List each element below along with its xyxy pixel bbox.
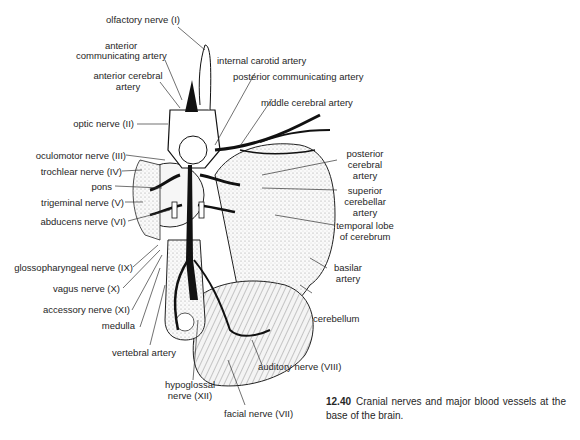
label-pons: pons (60, 181, 112, 192)
figure-number: 12.40 (326, 396, 351, 407)
label-anterior-cerebral-artery-2: artery (88, 81, 168, 92)
label-abducens-nerve: abducens nerve (VI) (20, 216, 126, 227)
label-cerebellum: cerebellum (313, 313, 359, 324)
label-superior-cerebellar-artery-3: artery (338, 207, 392, 218)
label-temporal-lobe-1: temporal lobe (333, 220, 397, 231)
label-basilar-artery-2: artery (327, 273, 369, 284)
label-posterior-cerebral-artery-1: posterior (338, 148, 392, 159)
label-posterior-cerebral-artery-3: artery (338, 170, 392, 181)
label-auditory-nerve: auditory nerve (VIII) (258, 361, 341, 372)
label-anterior-cerebral-artery-1: anterior cerebral (88, 70, 168, 81)
label-hypoglossal-nerve-2: nerve (XII) (160, 390, 220, 401)
label-oculomotor-nerve: oculomotor nerve (III) (20, 150, 126, 161)
label-posterior-communicating-artery: posterior communicating artery (233, 71, 363, 82)
label-posterior-cerebral-artery-2: cerebral (338, 159, 392, 170)
label-internal-carotid-artery: internal carotid artery (217, 55, 306, 66)
label-superior-cerebellar-artery-1: superior (338, 185, 392, 196)
label-temporal-lobe-2: of cerebrum (333, 231, 397, 242)
label-optic-nerve: optic nerve (II) (40, 118, 134, 129)
label-facial-nerve: facial nerve (VII) (224, 408, 293, 419)
figure-caption-text: Cranial nerves and major blood vessels a… (326, 396, 566, 421)
label-olfactory-nerve: olfactory nerve (I) (102, 14, 180, 25)
label-hypoglossal-nerve-1: hypoglossal (160, 379, 220, 390)
label-basilar-artery-1: basilar (327, 262, 369, 273)
label-vertebral-artery: vertebral artery (112, 347, 176, 358)
label-glossopharyngeal-nerve: glossopharyngeal nerve (IX) (0, 262, 133, 273)
label-vagus-nerve: vagus nerve (X) (20, 283, 120, 294)
figure-caption: 12.40Cranial nerves and major blood vess… (326, 395, 566, 423)
label-trochlear-nerve: trochlear nerve (IV) (20, 166, 122, 177)
label-medulla: medulla (80, 320, 135, 331)
label-superior-cerebellar-artery-2: cerebellar (338, 196, 392, 207)
label-middle-cerebral-artery: middle cerebral artery (261, 97, 353, 108)
label-accessory-nerve: accessory nerve (XI) (20, 304, 130, 315)
label-anterior-communicating-artery-2: communicating artery (76, 50, 166, 61)
label-trigeminal-nerve: trigeminal nerve (V) (20, 197, 124, 208)
